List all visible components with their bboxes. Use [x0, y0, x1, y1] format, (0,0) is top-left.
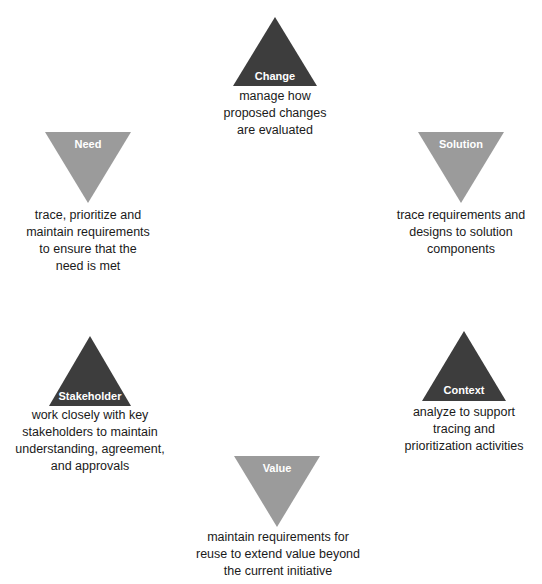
triangle-down-icon: Value: [234, 456, 320, 527]
node-description: trace requirements and designs to soluti…: [380, 207, 542, 258]
node-label: Need: [45, 138, 131, 150]
node-label: Solution: [418, 138, 504, 150]
triangle-up-icon: Context: [422, 331, 506, 401]
triangle-up-icon: Change: [233, 17, 317, 86]
node-description: maintain requirements for reuse to exten…: [190, 529, 366, 580]
node-label: Change: [233, 70, 317, 82]
node-description: manage how proposed changes are evaluate…: [193, 88, 357, 139]
node-label: Context: [422, 384, 506, 396]
triangle-down-icon: Solution: [418, 132, 504, 203]
node-label: Stakeholder: [49, 390, 131, 402]
node-description: work closely with key stakeholders to ma…: [2, 407, 178, 475]
triangle-up-icon: Stakeholder: [49, 336, 131, 406]
node-description: trace, prioritize and maintain requireme…: [14, 207, 162, 275]
triangle-down-icon: Need: [45, 132, 131, 203]
node-description: analyze to support tracing and prioritiz…: [392, 404, 536, 455]
node-label: Value: [234, 462, 320, 474]
